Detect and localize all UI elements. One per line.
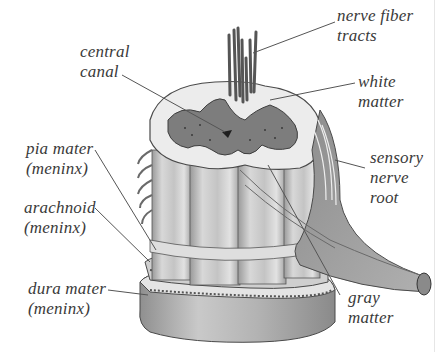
label-arachnoid: arachnoid (meninx) xyxy=(24,198,96,238)
white-matter-columns xyxy=(152,150,320,285)
label-sensory-nerve-root: sensory nerve root xyxy=(370,148,423,208)
left-rootlets xyxy=(138,150,152,224)
label-pia-mater: pia mater (meninx) xyxy=(26,139,93,179)
label-white-matter: white matter xyxy=(358,72,404,112)
label-nerve-fiber-tracts: nerve fiber tracts xyxy=(337,6,413,46)
label-central-canal: central canal xyxy=(80,42,130,82)
label-gray-matter: gray matter xyxy=(348,288,394,328)
spinal-cord-diagram: nerve fiber tracts central canal white m… xyxy=(0,0,442,352)
label-dura-mater: dura mater (meninx) xyxy=(28,279,106,319)
